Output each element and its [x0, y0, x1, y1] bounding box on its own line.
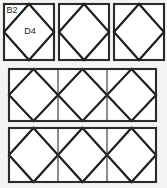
band-face [9, 128, 156, 182]
tile-r1c1: B2 D4 [4, 4, 54, 60]
band-face [9, 69, 156, 121]
top-row: B2 D4 [4, 4, 164, 60]
bottom-row [9, 128, 156, 182]
corner-label-b2: B2 [7, 5, 18, 15]
tile-face [114, 4, 164, 60]
tile-face [59, 4, 109, 60]
tile-r1c2 [59, 4, 109, 60]
middle-row [9, 69, 156, 121]
tiling-canvas: B2 D4 [0, 0, 167, 188]
center-label-d4: D4 [24, 26, 36, 36]
tile-r1c3 [114, 4, 164, 60]
tiling-figure: B2 D4 [0, 0, 167, 188]
